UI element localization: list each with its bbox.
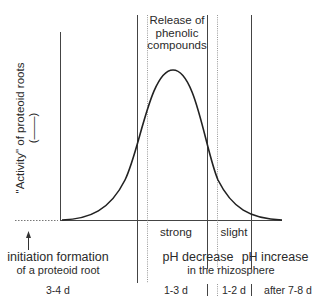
duration-slight: 1-2 d <box>222 285 246 296</box>
title-line-1: Release of <box>147 14 206 27</box>
activity-curve <box>62 70 282 220</box>
duration-strong: 1-3 d <box>164 285 188 296</box>
y-axis-label: "Activity" of proteoid roots (——) <box>14 63 40 194</box>
label-rhizosphere: in the rhizosphere <box>187 265 274 276</box>
label-ph-increase: pH increase <box>242 251 309 264</box>
duration-initiation: 3-4 d <box>46 285 70 296</box>
title-line-2: phenolic <box>147 27 206 40</box>
duration-after: after 7-8 d <box>264 285 312 296</box>
label-initiation: initiation formation <box>7 251 108 264</box>
label-ph-decrease: pH decrease <box>163 251 234 264</box>
up-arrow-icon <box>26 231 31 250</box>
title-line-3: compounds <box>147 39 206 52</box>
label-strong: strong <box>160 226 192 238</box>
label-slight: slight <box>221 226 248 238</box>
label-proteoid-root: of a proteoid root <box>16 265 99 276</box>
y-axis-title: "Activity" of proteoid roots <box>14 63 27 194</box>
diagram-title: Release of phenolic compounds <box>147 14 206 52</box>
y-axis-legend-line: (——) <box>27 63 40 194</box>
